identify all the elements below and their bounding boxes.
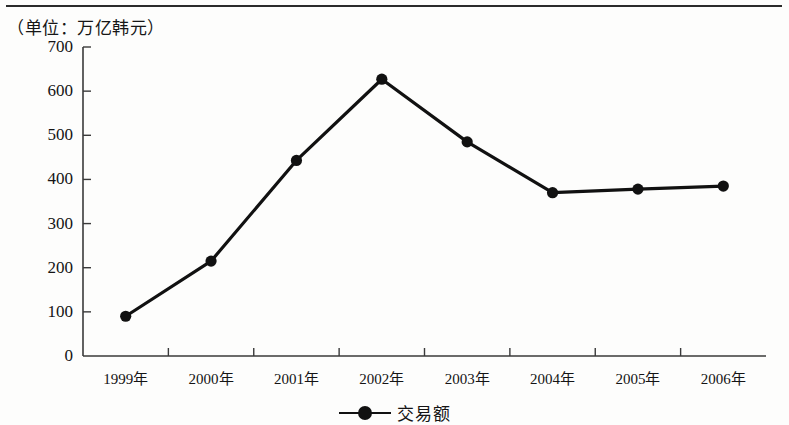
y-axis-tick-label: 100 — [27, 303, 73, 320]
y-axis-tick-label: 200 — [27, 259, 73, 276]
y-axis-tick-label: 700 — [27, 38, 73, 55]
y-axis-tick-label: 400 — [27, 170, 73, 187]
legend-line-marker-icon — [339, 406, 391, 420]
x-axis-tick-label: 2006年 — [678, 372, 768, 387]
line-chart: 01002003004005006007001999年2000年2001年200… — [0, 0, 789, 425]
x-axis-tick-label: 2001年 — [251, 372, 341, 387]
legend-label-trading-volume: 交易额 — [397, 400, 451, 425]
x-axis-tick-label: 2002年 — [337, 372, 427, 387]
x-axis-tick-label: 2004年 — [508, 372, 598, 387]
x-axis-tick-label: 1999年 — [81, 372, 171, 387]
y-axis-tick-label: 500 — [27, 126, 73, 143]
x-axis-tick-label: 2003年 — [422, 372, 512, 387]
x-axis-tick-label: 2005年 — [593, 372, 683, 387]
chart-legend: 交易额 — [0, 400, 789, 425]
x-axis-tick-label: 2000年 — [166, 372, 256, 387]
y-axis-tick-label: 600 — [27, 82, 73, 99]
chart-canvas — [0, 0, 789, 425]
y-axis-tick-label: 0 — [27, 347, 73, 364]
y-axis-tick-label: 300 — [27, 215, 73, 232]
chart-page: （单位：万亿韩元） 01002003004005006007001999年200… — [0, 0, 789, 425]
